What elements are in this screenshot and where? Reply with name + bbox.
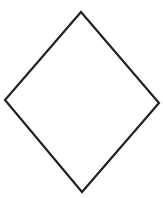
diamond-shape (5, 12, 159, 192)
diagram-canvas (0, 0, 163, 198)
